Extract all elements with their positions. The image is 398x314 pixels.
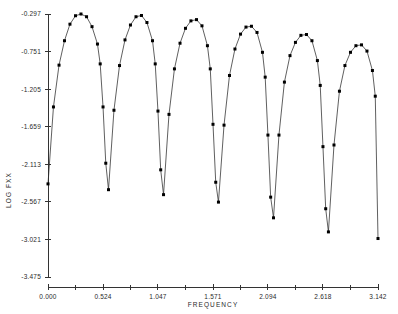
chart-root: -0.297-0.751-1.205-1.659-2.113-2.567-3.0… (0, 0, 398, 314)
y-tick-label: -0.297 (21, 10, 41, 17)
data-point-marker (91, 25, 94, 28)
data-point-marker (209, 67, 212, 70)
data-point-marker (266, 134, 269, 137)
data-point-marker (332, 144, 335, 147)
data-point-marker (52, 105, 55, 108)
data-point-marker (256, 31, 259, 34)
data-point-marker (145, 21, 148, 24)
x-tick-label: 2.094 (259, 293, 276, 300)
x-tick-label: 0.524 (94, 293, 111, 300)
spectral-density-chart: -0.297-0.751-1.205-1.659-2.113-2.567-3.0… (0, 0, 398, 314)
data-point-marker (294, 41, 297, 44)
x-axis: 0.0000.5241.0471.5712.0942.6183.142 FREQ… (39, 284, 386, 309)
data-point-marker (74, 14, 77, 17)
data-point-marker (316, 59, 319, 62)
data-point-marker (365, 50, 368, 53)
data-point-marker (272, 216, 275, 219)
data-point-marker (239, 33, 242, 36)
data-point-marker (140, 14, 143, 17)
data-point-marker (135, 15, 138, 18)
data-point-marker (283, 81, 286, 84)
y-tick-label: -2.567 (21, 198, 41, 205)
data-point-marker (167, 113, 170, 116)
data-point-marker (68, 23, 71, 26)
y-axis-tick-labels: -0.297-0.751-1.205-1.659-2.113-2.567-3.0… (21, 10, 41, 280)
data-point-marker (228, 74, 231, 77)
data-point-marker (354, 44, 357, 47)
x-tick-label: 2.618 (314, 293, 331, 300)
data-point-marker (154, 62, 157, 65)
data-point-marker (85, 15, 88, 18)
data-point-marker (79, 13, 82, 16)
x-tick-label: 1.047 (149, 293, 166, 300)
data-point-marker (349, 51, 352, 54)
plot-area (47, 13, 380, 241)
y-axis-title: LOG FXX (5, 172, 12, 208)
y-tick-label: -0.751 (21, 48, 41, 55)
data-point-marker (179, 42, 182, 45)
data-point-marker (96, 43, 99, 46)
data-point-marker (112, 109, 115, 112)
data-point-marker (217, 201, 220, 204)
data-point-marker (299, 34, 302, 37)
data-point-marker (189, 19, 192, 22)
x-tick-label: 3.142 (369, 293, 386, 300)
y-tick-label: -3.475 (21, 273, 41, 280)
y-tick-label: -1.205 (21, 86, 41, 93)
data-point-marker (327, 230, 330, 233)
data-point-marker (162, 193, 165, 196)
data-point-marker (288, 54, 291, 57)
data-point-marker (377, 237, 380, 240)
data-point-marker (107, 188, 110, 191)
data-point-marker (261, 51, 264, 54)
data-point-marker (319, 84, 322, 87)
data-point-marker (173, 67, 176, 70)
x-tick-label: 0.000 (39, 293, 56, 300)
y-tick-label: -2.113 (22, 161, 41, 168)
data-point-marker (118, 64, 121, 67)
data-point-marker (310, 39, 313, 42)
data-point-marker (244, 26, 247, 29)
x-axis-title: FREQUENCY (188, 301, 239, 309)
data-point-marker (63, 39, 66, 42)
data-point-marker (343, 64, 346, 67)
data-point-marker (206, 44, 209, 47)
data-point-marker (374, 95, 377, 98)
data-point-marker (321, 145, 324, 148)
data-point-marker (324, 207, 327, 210)
data-point-marker (104, 162, 107, 165)
data-point-marker (102, 105, 105, 108)
data-point-marker (159, 168, 162, 171)
data-point-marker (371, 69, 374, 72)
data-point-marker (233, 48, 236, 51)
data-point-marker (214, 181, 217, 184)
data-point-marker (47, 182, 50, 185)
data-point-marker (250, 25, 253, 28)
data-point-marker (264, 76, 267, 79)
y-tick-label: -3.021 (21, 236, 41, 243)
data-point-marker (129, 24, 132, 27)
x-tick-label: 1.571 (204, 293, 221, 300)
y-tick-label: -1.659 (21, 123, 41, 130)
data-point-marker (156, 110, 159, 113)
data-point-marker (212, 123, 215, 126)
data-point-marker (338, 90, 341, 93)
data-point-marker (277, 134, 280, 137)
data-point-marker (223, 124, 226, 127)
x-axis-tick-labels: 0.0000.5241.0471.5712.0942.6183.142 (39, 293, 386, 300)
data-point-marker (58, 64, 61, 67)
data-point-marker (360, 43, 363, 46)
series-line (48, 14, 378, 239)
data-point-marker (123, 38, 126, 41)
data-point-marker (195, 18, 198, 21)
data-point-marker (184, 27, 187, 30)
data-point-marker (200, 24, 203, 27)
y-axis: -0.297-0.751-1.205-1.659-2.113-2.567-3.0… (5, 10, 51, 280)
data-point-marker (99, 62, 102, 65)
data-point-marker (269, 196, 272, 199)
data-point-marker (305, 33, 308, 36)
data-point-marker (151, 39, 154, 42)
